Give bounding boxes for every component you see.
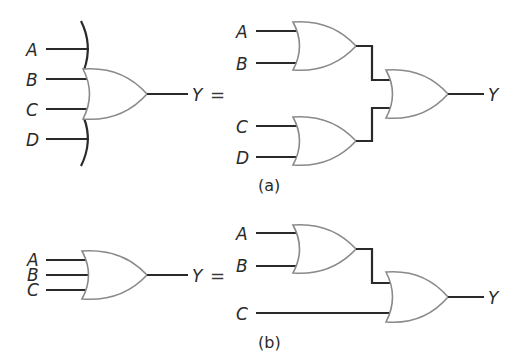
equals-sign: = xyxy=(210,265,225,286)
bracket-top xyxy=(81,21,88,70)
label-Y: Y xyxy=(488,85,500,105)
wire-gate1-to-gate3 xyxy=(356,46,391,80)
diagram-svg: A B C D Y = A B C D Y (a) A B xyxy=(0,0,520,362)
caption-b: (b) xyxy=(258,333,281,352)
label-A: A xyxy=(235,22,248,42)
or-gate-icon xyxy=(293,22,356,71)
label-C: C xyxy=(27,280,39,300)
part-a-right-circuit: A B C D Y (a) xyxy=(235,22,500,195)
wire-gate1-to-gate2 xyxy=(356,249,391,283)
label-A: A xyxy=(235,224,248,244)
equals-sign: = xyxy=(210,84,225,105)
label-Y: Y xyxy=(192,266,204,286)
label-C: C xyxy=(236,304,248,324)
or-gate-icon xyxy=(386,70,448,119)
or-gate-icon xyxy=(83,69,147,120)
logic-diagram: A B C D Y = A B C D Y (a) A B xyxy=(0,0,520,362)
label-Y: Y xyxy=(488,288,500,308)
part-a-left-circuit: A B C D Y = xyxy=(25,21,225,166)
label-D: D xyxy=(26,130,39,150)
or-gate-icon xyxy=(82,251,147,300)
label-B: B xyxy=(236,256,248,276)
label-D: D xyxy=(236,148,249,168)
label-Y: Y xyxy=(192,85,204,105)
label-B: B xyxy=(26,70,38,90)
label-B: B xyxy=(236,54,248,74)
part-b-right-circuit: A B C Y (b) xyxy=(235,224,500,352)
bracket-bottom xyxy=(81,118,88,166)
or-gate-icon xyxy=(293,225,356,274)
caption-a: (a) xyxy=(258,176,280,195)
part-b-left-circuit: A B C Y = xyxy=(26,250,225,300)
or-gate-icon xyxy=(293,117,356,166)
or-gate-icon xyxy=(386,272,448,323)
label-A: A xyxy=(25,40,38,60)
wire-gate2-to-gate3 xyxy=(356,108,391,141)
label-C: C xyxy=(26,100,38,120)
label-C: C xyxy=(236,117,248,137)
